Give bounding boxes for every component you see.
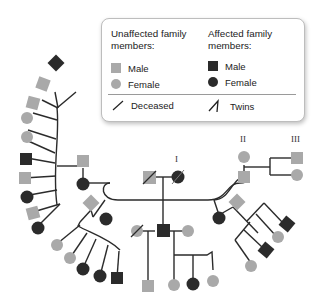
male-unaffected xyxy=(291,152,303,164)
female-affected xyxy=(77,263,90,276)
legend-unaffected: Unaffected family members: Male Female xyxy=(111,28,187,91)
female-affected xyxy=(21,191,34,204)
female-affected xyxy=(213,212,226,225)
female-unaffected xyxy=(245,260,257,272)
female-affected xyxy=(94,270,107,283)
male-unaffected xyxy=(35,76,50,91)
legend-label: Male xyxy=(128,63,149,74)
legend-affected-heading-line1: Affected family xyxy=(208,28,272,40)
legend-divider xyxy=(108,94,296,95)
gen1-female-affected-deceased xyxy=(172,170,185,184)
female-affected xyxy=(187,278,200,291)
generation-label-3: III xyxy=(291,134,300,144)
female-affected xyxy=(100,213,113,226)
male-unaffected xyxy=(26,96,41,111)
female-unaffected xyxy=(64,252,76,264)
deceased-slash-icon xyxy=(111,99,125,111)
gray-circle-icon xyxy=(111,79,121,89)
generation-label-2: II xyxy=(240,134,246,144)
female-unaffected-deceased xyxy=(131,225,143,237)
female-affected xyxy=(77,178,90,191)
male-affected xyxy=(258,242,275,259)
female-affected xyxy=(32,222,45,235)
gen1-male-deceased xyxy=(143,171,156,184)
female-unaffected xyxy=(51,239,63,251)
female-unaffected xyxy=(207,275,219,287)
legend-affected: Affected family members: Male Female xyxy=(208,28,272,89)
legend-label: Female xyxy=(225,77,257,88)
female-unaffected xyxy=(182,225,194,237)
female-unaffected xyxy=(272,231,284,243)
legend-affected-heading-line2: members: xyxy=(208,40,272,52)
legend-unaffected-female: Female xyxy=(111,77,187,91)
legend-deceased: Deceased xyxy=(111,99,174,111)
gray-square-icon xyxy=(111,63,121,73)
male-affected xyxy=(279,216,296,233)
twins-icon xyxy=(208,99,224,113)
legend-label: Twins xyxy=(230,101,254,112)
male-unaffected xyxy=(83,195,100,212)
black-square-icon xyxy=(208,61,218,71)
male-affected xyxy=(48,55,65,72)
black-circle-icon xyxy=(208,77,218,87)
legend-unaffected-male: Male xyxy=(111,61,187,75)
legend-label: Male xyxy=(225,61,246,72)
legend-affected-male: Male xyxy=(208,59,272,73)
male-unaffected xyxy=(77,155,89,167)
male-unaffected xyxy=(142,280,154,292)
male-unaffected xyxy=(238,171,250,183)
male-affected xyxy=(111,272,123,284)
legend-label: Female xyxy=(128,79,160,90)
legend-box: Unaffected family members: Male Female A… xyxy=(101,18,305,122)
generation-label-1: I xyxy=(175,154,178,164)
legend-affected-female: Female xyxy=(208,75,272,89)
female-unaffected xyxy=(291,169,303,181)
female-unaffected xyxy=(168,279,180,291)
legend-unaffected-heading-line1: Unaffected family xyxy=(111,28,187,40)
male-unaffected xyxy=(19,172,31,184)
female-unaffected xyxy=(21,112,33,124)
legend-unaffected-heading-line2: members: xyxy=(111,40,187,52)
male-unaffected xyxy=(26,206,41,221)
female-unaffected xyxy=(238,151,250,163)
male-affected xyxy=(157,224,170,237)
male-affected xyxy=(20,153,32,165)
legend-label: Deceased xyxy=(131,100,174,111)
female-unaffected xyxy=(21,131,33,143)
legend-twins: Twins xyxy=(208,99,254,113)
